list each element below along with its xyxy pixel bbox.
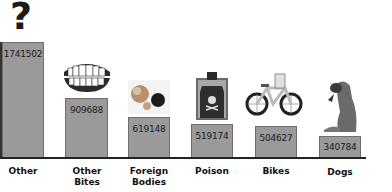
bar-other-bites: 909688 bbox=[65, 98, 108, 158]
marbles-icon bbox=[128, 80, 170, 114]
question-mark-icon: ? bbox=[10, 0, 32, 38]
bar-other: 1741502 bbox=[2, 42, 44, 158]
x-axis-baseline bbox=[0, 157, 366, 159]
bar-chart: ? bbox=[0, 0, 392, 192]
bar-value: 504627 bbox=[256, 133, 296, 143]
bar-dogs: 340784 bbox=[319, 136, 361, 158]
bar-value: 340784 bbox=[320, 142, 360, 152]
bar-value: 909688 bbox=[66, 105, 107, 115]
dog-icon bbox=[322, 78, 362, 136]
bar-poison: 519174 bbox=[191, 124, 233, 158]
category-label-other-bites: Other Bites bbox=[57, 166, 117, 188]
bar-value: 1741502 bbox=[3, 49, 43, 59]
bar-value: 619148 bbox=[129, 124, 169, 134]
poison-bottle-icon bbox=[194, 72, 230, 122]
category-label-foreign-bodies: Foreign Bodies bbox=[119, 166, 179, 188]
category-label-bikes: Bikes bbox=[246, 166, 306, 177]
bar-foreign-bodies: 619148 bbox=[128, 117, 170, 158]
bicycle-icon bbox=[245, 72, 303, 118]
teeth-icon bbox=[60, 58, 114, 94]
bar-bikes: 504627 bbox=[255, 126, 297, 158]
category-label-other: Other bbox=[0, 166, 53, 177]
category-label-poison: Poison bbox=[182, 166, 242, 177]
bar-value: 519174 bbox=[192, 131, 232, 141]
category-label-dogs: Dogs bbox=[310, 167, 370, 178]
